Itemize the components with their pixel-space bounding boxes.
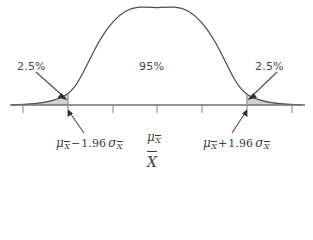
right-tail-callout-arrow — [248, 72, 278, 100]
z-coefficient: 1.96 — [81, 137, 106, 150]
axis-variable-label: X — [147, 154, 157, 170]
lower-bound-leader-line — [68, 110, 85, 134]
minus-operator: − — [71, 137, 80, 150]
left-tail-percent-label: 2.5% — [17, 60, 46, 73]
mu-subscript-xbar: X — [211, 142, 217, 151]
central-area-percent-label: 95% — [139, 60, 164, 73]
upper-critical-value-label: μX + 1.96 σX — [203, 136, 270, 150]
sigma-subscript-xbar: X — [117, 142, 123, 151]
sigma-subscript-xbar: X — [264, 142, 270, 151]
mu-symbol: μ — [147, 130, 155, 144]
upper-bound-leader-line — [232, 110, 248, 134]
lower-critical-value-label: μX − 1.96 σX — [56, 136, 123, 150]
sigma-symbol: σ — [255, 136, 263, 150]
mu-symbol: μ — [56, 136, 64, 150]
mean-label: μX — [147, 130, 161, 144]
mu-symbol: μ — [203, 136, 211, 150]
z-coefficient: 1.96 — [228, 137, 253, 150]
left-tail-callout-arrow — [36, 72, 68, 100]
plus-operator: + — [218, 137, 227, 150]
mu-subscript-xbar: X — [155, 136, 161, 145]
axis-ticks — [23, 105, 292, 113]
sigma-symbol: σ — [108, 136, 116, 150]
mu-subscript-xbar: X — [64, 142, 70, 151]
right-tail-percent-label: 2.5% — [255, 60, 284, 73]
xbar-symbol: X — [147, 154, 157, 170]
